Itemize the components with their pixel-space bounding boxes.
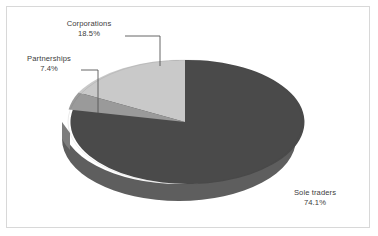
leader-line-corporations [125, 36, 160, 66]
label-sole-traders-name: Sole traders [284, 188, 346, 198]
pie-top-face-group [68, 60, 304, 184]
label-corporations: Corporations 18.5% [56, 19, 122, 40]
label-partnerships-percent: 7.4% [16, 64, 82, 74]
pie-chart-screenshot: Corporations 18.5% Partnerships 7.4% Sol… [0, 0, 378, 236]
label-sole-traders-percent: 74.1% [284, 198, 346, 208]
label-corporations-percent: 18.5% [56, 29, 122, 39]
label-sole-traders: Sole traders 74.1% [284, 188, 346, 209]
label-partnerships-name: Partnerships [16, 54, 82, 64]
label-corporations-name: Corporations [56, 19, 122, 29]
label-partnerships: Partnerships 7.4% [16, 54, 82, 75]
